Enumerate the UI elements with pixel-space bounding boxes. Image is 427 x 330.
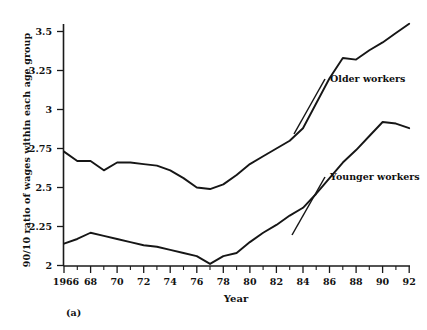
y-axis-tick-labels: 3.5 3.25 3 2.75 2.5 2.25 2 [29, 26, 52, 271]
x-tick-label: 1966 [53, 276, 80, 287]
x-tick-label: 80 [243, 276, 257, 287]
y-tick-label: 2.25 [29, 221, 52, 232]
y-axis-ticks [57, 32, 64, 266]
x-tick-label: 70 [110, 276, 124, 287]
x-tick-label: 82 [270, 276, 283, 287]
x-tick-label: 68 [84, 276, 98, 287]
chart-figure: 90/10 ratio of wages within each age gro… [0, 0, 427, 330]
y-tick-label: 3.25 [29, 65, 52, 76]
series-label-older-workers: Older workers [330, 73, 405, 84]
x-tick-label: 72 [137, 276, 150, 287]
series-label-younger-workers: Younger workers [329, 171, 420, 182]
x-tick-label: 92 [403, 276, 416, 287]
x-axis-title: Year [223, 293, 249, 304]
x-tick-label: 84 [296, 276, 310, 287]
x-tick-label: 74 [164, 276, 178, 287]
line-chart-svg: 90/10 ratio of wages within each age gro… [0, 0, 427, 330]
y-tick-label: 3 [45, 104, 52, 115]
x-axis-tick-labels: 1966 68 70 72 74 76 78 80 82 84 86 88 90… [53, 276, 416, 287]
data-line-younger-workers [64, 122, 409, 264]
y-tick-label: 3.5 [35, 26, 52, 37]
leader-line-younger-workers [292, 177, 325, 235]
x-tick-label: 90 [376, 276, 390, 287]
x-tick-label: 88 [349, 276, 363, 287]
x-tick-label: 78 [217, 276, 231, 287]
x-tick-label: 86 [323, 276, 337, 287]
y-tick-label: 2 [45, 260, 52, 271]
y-tick-label: 2.75 [29, 143, 52, 154]
data-line-older-workers [64, 24, 409, 189]
x-axis-ticks [64, 266, 409, 273]
x-tick-label: 76 [190, 276, 204, 287]
panel-label: (a) [66, 307, 81, 318]
y-tick-label: 2.5 [35, 182, 52, 193]
leader-line-older-workers [294, 79, 325, 134]
